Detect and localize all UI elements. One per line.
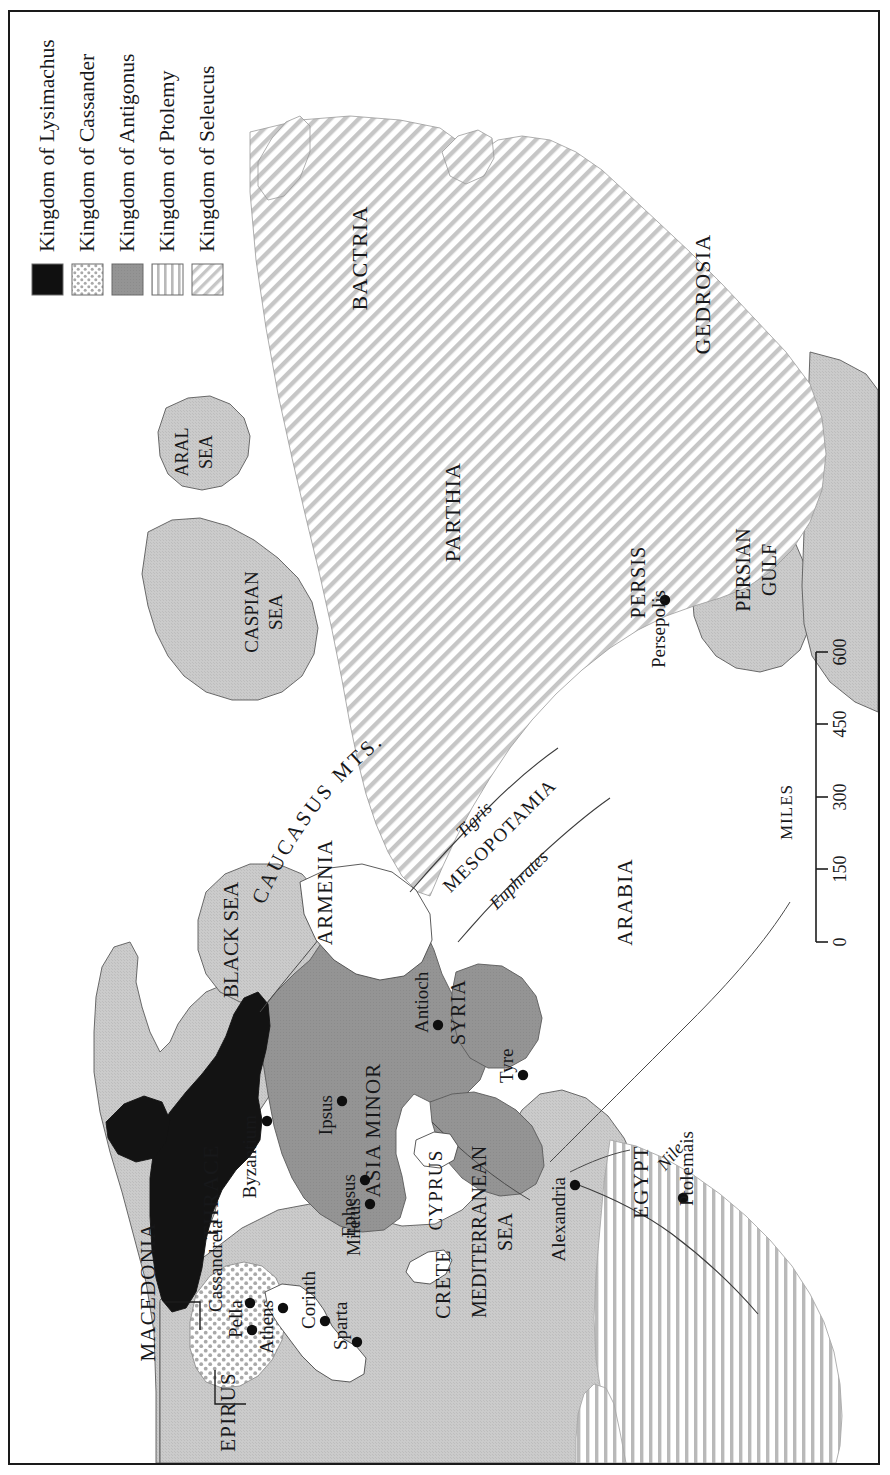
region-label-parthia: PARTHIA bbox=[440, 462, 465, 562]
region-label-armenia: ARMENIA bbox=[313, 839, 337, 945]
region-label-gedrosia: GEDROSIA bbox=[690, 234, 715, 355]
region-label-syria: SYRIA bbox=[447, 979, 469, 1045]
city-label-ptolemais: Ptolemais bbox=[676, 1131, 697, 1206]
city-label-alexandria: Alexandria bbox=[548, 1176, 569, 1261]
sea-label-aral-line1: ARAL bbox=[172, 428, 192, 477]
region-label-crete: CRETE bbox=[432, 1249, 454, 1318]
city-dot-sparta bbox=[352, 1337, 362, 1347]
map-canvas: Kingdom of Lysimachus Kingdom of Cassand… bbox=[10, 12, 878, 1463]
city-dot-ipsus bbox=[337, 1096, 347, 1106]
region-label-bactria: BACTRIA bbox=[347, 206, 372, 311]
scale-bar bbox=[816, 652, 828, 942]
city-label-ipsus: Ipsus bbox=[315, 1095, 336, 1135]
scale-label-450: 450 bbox=[830, 711, 850, 738]
scale-label-300: 300 bbox=[830, 784, 850, 811]
legend-label-seleucus: Kingdom of Seleucus bbox=[195, 66, 219, 252]
scale-label-150: 150 bbox=[830, 856, 850, 883]
legend-label-ptolemy: Kingdom of Ptolemy bbox=[155, 70, 179, 252]
map-page: Kingdom of Lysimachus Kingdom of Cassand… bbox=[0, 0, 890, 1475]
legend-swatch-ptolemy bbox=[152, 264, 183, 295]
sea-label-caspian-line1: CASPIAN bbox=[241, 571, 262, 653]
city-dot-byzantium bbox=[262, 1116, 272, 1126]
legend-label-antigonus: Kingdom of Antigonus bbox=[115, 54, 139, 252]
city-label-tyre: Tyre bbox=[496, 1048, 517, 1083]
city-dot-pella bbox=[247, 1325, 257, 1335]
legend-swatch-seleucus bbox=[192, 264, 223, 295]
city-dot-corinth bbox=[320, 1316, 330, 1326]
river-label-euphrates: Euphrates bbox=[485, 847, 552, 914]
map-frame: Kingdom of Lysimachus Kingdom of Cassand… bbox=[8, 10, 880, 1465]
city-label-antioch: Antioch bbox=[411, 971, 432, 1033]
legend-swatch-antigonus bbox=[112, 264, 143, 295]
scale-label-0: 0 bbox=[830, 938, 850, 947]
legend-label-cassander: Kingdom of Cassander bbox=[75, 54, 99, 252]
scale-unit-label: MILES bbox=[777, 784, 796, 840]
scale-label-600: 600 bbox=[830, 639, 850, 666]
kingdom-of-ptolemy-area bbox=[576, 1140, 842, 1463]
city-dot-miletus bbox=[365, 1199, 375, 1209]
city-label-corinth: Corinth bbox=[298, 1270, 319, 1329]
legend-label-lysimachus: Kingdom of Lysimachus bbox=[35, 39, 59, 252]
sea-label-persian-gulf-line1: PERSIAN bbox=[732, 528, 754, 611]
region-label-cyprus: CYPRUS bbox=[425, 1149, 446, 1230]
legend: Kingdom of Lysimachus Kingdom of Cassand… bbox=[32, 39, 223, 295]
sea-label-persian-gulf-line2: GULF bbox=[758, 544, 780, 596]
city-label-sparta: Sparta bbox=[330, 1301, 351, 1350]
sea-label-caspian-line2: SEA bbox=[265, 594, 286, 630]
caspian-sea bbox=[142, 518, 318, 700]
city-dot-ephesus bbox=[360, 1175, 370, 1185]
city-dot-alexandria bbox=[570, 1180, 580, 1190]
city-dot-antioch bbox=[433, 1020, 443, 1030]
city-label-byzantium: Byzantium bbox=[239, 1115, 260, 1199]
sea-label-mediterranean-line2: SEA bbox=[494, 1213, 516, 1251]
city-dot-cassandreia bbox=[245, 1298, 255, 1308]
legend-swatch-lysimachus bbox=[32, 264, 63, 295]
city-dot-tyre bbox=[518, 1070, 528, 1080]
city-label-athens: Athens bbox=[256, 1300, 277, 1354]
city-label-cassandreia: Cassandreia bbox=[205, 1220, 226, 1312]
city-label-persepolis: Persepolis bbox=[648, 590, 669, 668]
region-label-epirus: EPIRUS bbox=[216, 1372, 240, 1452]
legend-swatch-cassander bbox=[72, 264, 103, 295]
sea-label-black-sea: BLACK SEA bbox=[219, 881, 243, 998]
region-label-persis: PERSIS bbox=[627, 546, 649, 619]
city-dot-athens bbox=[278, 1303, 288, 1313]
city-label-miletus: Miletus bbox=[343, 1198, 364, 1256]
region-label-arabia: ARABIA bbox=[613, 858, 637, 946]
sea-label-mediterranean-line1: MEDITERRANEAN bbox=[468, 1146, 490, 1318]
city-label-pella: Pella bbox=[225, 1299, 246, 1338]
sea-label-aral-line2: SEA bbox=[196, 435, 216, 469]
region-label-egypt: EGYPT bbox=[629, 1145, 653, 1219]
region-label-macedonia: MACEDONIA bbox=[136, 1222, 160, 1361]
